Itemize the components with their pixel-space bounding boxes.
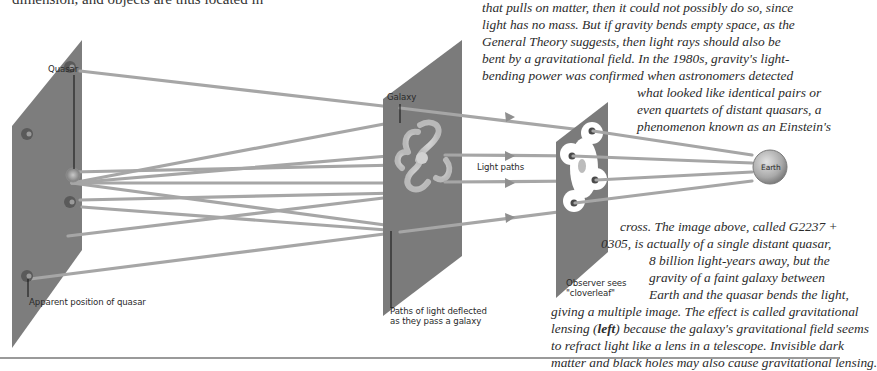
body-line: cross. The image above, called G2237 + <box>620 218 838 235</box>
body-line: to refract light like a lens in a telesc… <box>551 337 844 354</box>
body-line: 0305, is actually of a single distant qu… <box>601 235 831 252</box>
body-line: light has no mass. But if gravity bends … <box>482 16 795 33</box>
lensing-bold-left: left <box>598 321 616 336</box>
page-divider-rule <box>0 357 840 359</box>
label-observer-1: Observer sees <box>566 278 626 288</box>
body-line: even quartets of distant quasars, a <box>637 101 822 118</box>
body-line: General Theory suggests, then light rays… <box>482 33 781 50</box>
label-quasar: Quasar <box>48 64 78 74</box>
galaxy-plane <box>383 40 462 316</box>
lensing-text-after: ) because the galaxy's gravitational fie… <box>615 321 869 336</box>
label-paths-deflected-1: Paths of light deflected <box>390 306 487 316</box>
label-light-paths: Light paths <box>477 162 524 172</box>
body-line: giving a multiple image. The effect is c… <box>551 303 859 320</box>
body-line: gravity of a faint galaxy between <box>649 269 825 286</box>
body-line: that pulls on matter, then it could not … <box>482 0 793 16</box>
label-observer-2: "cloverleaf" <box>566 288 615 298</box>
body-line: bent by a gravitational field. In the 19… <box>482 50 789 67</box>
quasar-source <box>66 168 80 182</box>
body-line-lensing: lensing (left) because the galaxy's grav… <box>551 320 869 337</box>
label-apparent-position: Apparent position of quasar <box>29 297 146 307</box>
body-line: what looked like identical pairs or <box>637 84 821 101</box>
body-line: Earth and the quasar bends the light, <box>649 286 849 303</box>
lensing-text-before: lensing ( <box>551 321 598 336</box>
label-paths-deflected-2: as they pass a galaxy <box>390 316 481 326</box>
lens-galaxy-faint <box>578 159 586 173</box>
label-galaxy: Galaxy <box>387 92 416 102</box>
light-rays-to-galaxy <box>30 71 400 279</box>
body-line: 8 billion light-years away, but the <box>649 252 830 269</box>
body-line: bending power was confirmed when astrono… <box>482 67 793 84</box>
body-line: phenomenon known as an Einstein's <box>637 118 831 135</box>
label-earth: Earth <box>761 163 781 173</box>
